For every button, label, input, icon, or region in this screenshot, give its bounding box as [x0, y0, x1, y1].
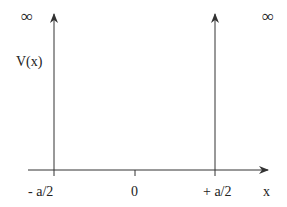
- x-axis-label: x: [263, 185, 270, 199]
- tick-left-label: - a/2: [28, 185, 53, 199]
- infinity-left-label: ∞: [21, 8, 33, 25]
- infinity-right-label: ∞: [262, 8, 274, 25]
- potential-well-diagram: [0, 0, 287, 207]
- y-axis-label: V(x): [16, 55, 42, 69]
- tick-center-label: 0: [131, 185, 138, 199]
- tick-right-label: + a/2: [203, 185, 232, 199]
